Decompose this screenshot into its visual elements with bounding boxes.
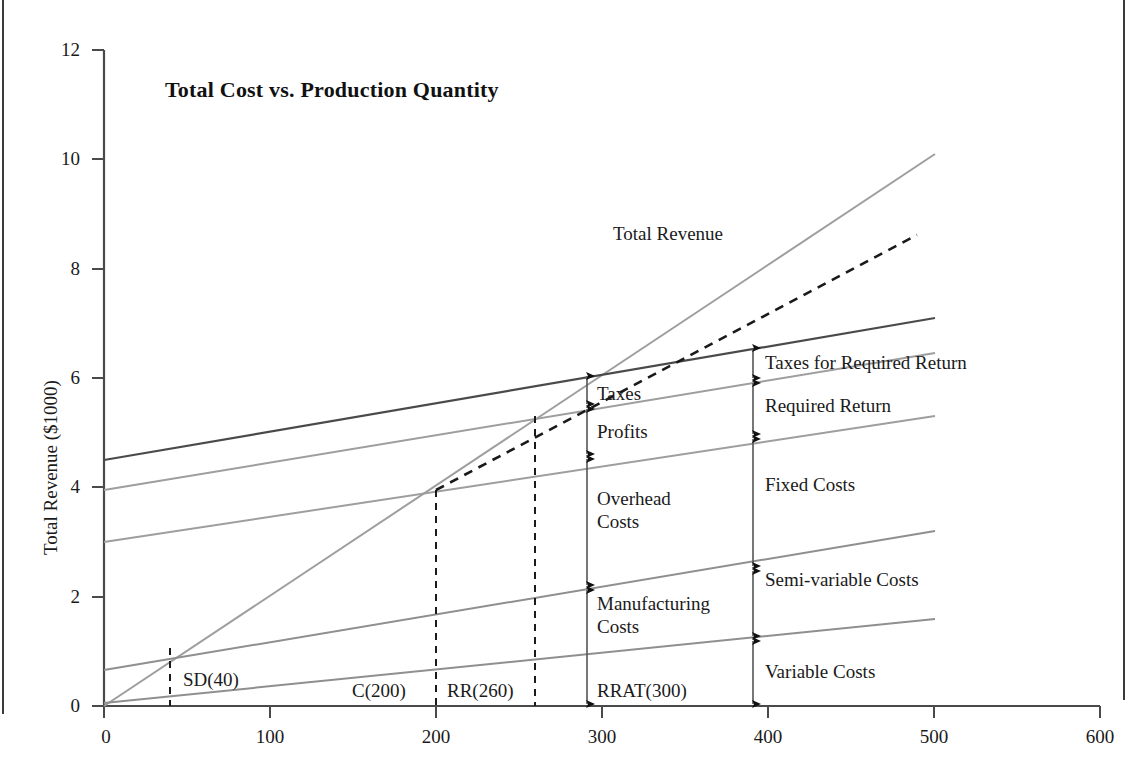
- label-taxes-for-required-return: Taxes for Required Return: [765, 351, 967, 374]
- series-cost-plus-taxes-required-return: [104, 318, 935, 460]
- x-tick-label-500: 500: [916, 726, 952, 748]
- label-variable-costs: Variable Costs: [765, 660, 875, 683]
- axes: [92, 50, 1100, 718]
- y-tick-label-12: 12: [38, 39, 80, 61]
- plot-canvas: [0, 0, 1128, 780]
- label-manufacturing-costs-line1: Manufacturing: [597, 593, 710, 614]
- y-tick-label-0: 0: [38, 695, 80, 717]
- label-manufacturing-costs-line2: Costs: [597, 616, 639, 637]
- x-tick-label-100: 100: [252, 726, 288, 748]
- label-profits: Profits: [597, 420, 648, 443]
- x-tick-label-0: 0: [96, 726, 116, 748]
- y-tick-label-4: 4: [38, 476, 80, 498]
- series-total-revenue: [104, 154, 935, 706]
- series-semivariable-plus-variable: [104, 531, 935, 670]
- label-rrat-300: RRAT(300): [597, 679, 687, 702]
- label-rr-260: RR(260): [447, 679, 514, 702]
- label-required-return: Required Return: [765, 394, 891, 417]
- label-overhead-costs: Overhead Costs: [597, 487, 671, 533]
- label-taxes: Taxes: [597, 382, 641, 405]
- label-c-200: C(200): [352, 679, 406, 702]
- y-tick-label-6: 6: [38, 367, 80, 389]
- chart-page: Total Cost vs. Production Quantity Total…: [0, 0, 1128, 780]
- x-tick-marks: [104, 706, 1100, 718]
- x-tick-label-200: 200: [418, 726, 454, 748]
- y-tick-marks: [92, 50, 104, 706]
- y-tick-label-2: 2: [38, 586, 80, 608]
- x-tick-label-600: 600: [1082, 726, 1118, 748]
- x-tick-label-400: 400: [750, 726, 786, 748]
- y-axis-title: Total Revenue ($1000): [40, 380, 62, 555]
- label-overhead-costs-line1: Overhead: [597, 488, 671, 509]
- label-total-revenue: Total Revenue: [613, 222, 723, 245]
- chart-title: Total Cost vs. Production Quantity: [165, 77, 499, 103]
- label-manufacturing-costs: Manufacturing Costs: [597, 592, 710, 638]
- label-fixed-costs: Fixed Costs: [765, 473, 855, 496]
- label-sd-40: SD(40): [183, 668, 239, 691]
- x-tick-label-300: 300: [584, 726, 620, 748]
- y-tick-label-8: 8: [38, 258, 80, 280]
- label-overhead-costs-line2: Costs: [597, 511, 639, 532]
- y-tick-label-10: 10: [38, 148, 80, 170]
- label-semi-variable-costs: Semi-variable Costs: [765, 568, 919, 591]
